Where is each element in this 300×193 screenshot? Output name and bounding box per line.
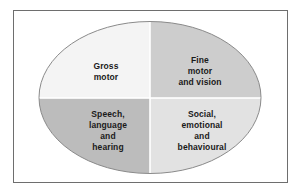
ellipse-graphic — [38, 21, 262, 174]
quadrant-fill-top-right — [150, 21, 262, 98]
divider-horizontal — [38, 97, 262, 99]
developmental-domains-diagram: Gross motor Fine motor and vision Speech… — [0, 0, 300, 193]
quadrant-ellipse: Gross motor Fine motor and vision Speech… — [38, 21, 262, 174]
quadrant-fill-top-left — [38, 21, 150, 98]
